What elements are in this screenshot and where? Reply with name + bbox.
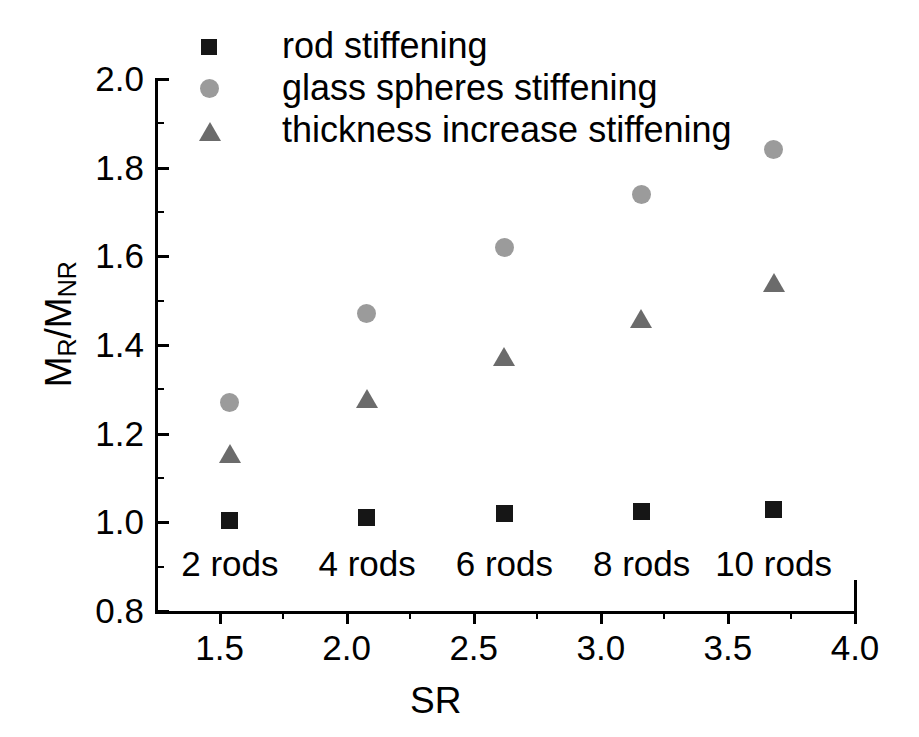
y-tick-label: 1.2 <box>48 416 144 451</box>
x-tick-major <box>219 611 222 624</box>
x-tick-major <box>600 611 603 624</box>
x-tick-major <box>727 611 730 624</box>
y-axis-title-sub1: R <box>53 338 81 356</box>
plot-annotation: 6 rods <box>456 546 553 581</box>
x-axis-line <box>155 611 857 614</box>
x-tick-major <box>346 611 349 624</box>
y-axis-title-sub2: NR <box>53 261 81 297</box>
legend-circle-icon <box>194 68 228 110</box>
y-tick-major <box>155 78 169 81</box>
plot-annotation: 4 rods <box>318 546 415 581</box>
y-tick-label: 0.8 <box>48 593 144 628</box>
x-axis-title: SR <box>410 682 461 720</box>
legend-triangle-icon <box>194 110 228 152</box>
x-tick-label: 2.5 <box>424 630 524 665</box>
plot-annotation: 8 rods <box>593 546 690 581</box>
y-tick-label: 1.0 <box>48 504 144 539</box>
y-tick-major <box>155 167 169 170</box>
data-point-triangle <box>763 273 785 292</box>
data-point-triangle <box>630 309 652 328</box>
x-tick-minor <box>409 611 411 619</box>
y-axis-title: MR/MNR <box>39 234 88 414</box>
legend-item-label: glass spheres stiffening <box>282 67 658 109</box>
data-point-triangle <box>493 347 515 366</box>
y-tick-minor <box>155 211 164 213</box>
data-point-square <box>496 505 513 522</box>
y-tick-major <box>155 255 169 258</box>
y-tick-minor <box>155 388 164 390</box>
data-point-circle <box>220 393 239 412</box>
y-axis-title-m2: M <box>38 297 79 328</box>
y-tick-major <box>155 433 169 436</box>
x-tick-label: 1.5 <box>170 630 270 665</box>
legend-item-label: thickness increase stiffening <box>282 109 732 151</box>
x-tick-label: 3.0 <box>551 630 651 665</box>
data-point-square <box>765 501 782 518</box>
x-tick-label: 2.0 <box>297 630 397 665</box>
y-tick-minor <box>155 300 164 302</box>
y-tick-minor <box>155 566 164 568</box>
data-point-triangle <box>356 389 378 408</box>
data-point-square <box>221 512 238 529</box>
x-tick-minor <box>282 611 284 619</box>
x-axis-right-cap <box>854 580 857 614</box>
y-tick-minor <box>155 477 164 479</box>
y-tick-major <box>155 521 169 524</box>
data-point-triangle <box>219 444 241 463</box>
x-tick-label: 3.5 <box>678 630 778 665</box>
data-point-circle <box>764 140 783 159</box>
data-point-circle <box>495 238 514 257</box>
y-tick-label: 2.0 <box>48 61 144 96</box>
y-tick-label: 1.8 <box>48 150 144 185</box>
x-tick-minor <box>790 611 792 619</box>
legend-item-label: rod stiffening <box>282 25 487 67</box>
x-tick-minor <box>663 611 665 619</box>
plot-annotation: 10 rods <box>715 546 832 581</box>
data-point-square <box>633 503 650 520</box>
y-tick-major <box>155 344 169 347</box>
x-tick-minor <box>536 611 538 619</box>
x-tick-major <box>854 611 857 624</box>
y-axis-title-m1: M <box>38 356 79 387</box>
scatter-chart-figure: 0.81.01.21.41.61.82.0 1.52.02.53.03.54.0… <box>0 0 919 737</box>
legend-square-icon <box>194 26 228 68</box>
x-tick-label: 4.0 <box>805 630 905 665</box>
y-axis-title-slash: / <box>38 328 79 338</box>
y-tick-minor <box>155 122 164 124</box>
data-point-circle <box>357 304 376 323</box>
x-tick-major <box>473 611 476 624</box>
data-point-square <box>358 509 375 526</box>
data-point-circle <box>632 185 651 204</box>
plot-annotation: 2 rods <box>181 546 278 581</box>
y-tick-major <box>155 610 169 613</box>
